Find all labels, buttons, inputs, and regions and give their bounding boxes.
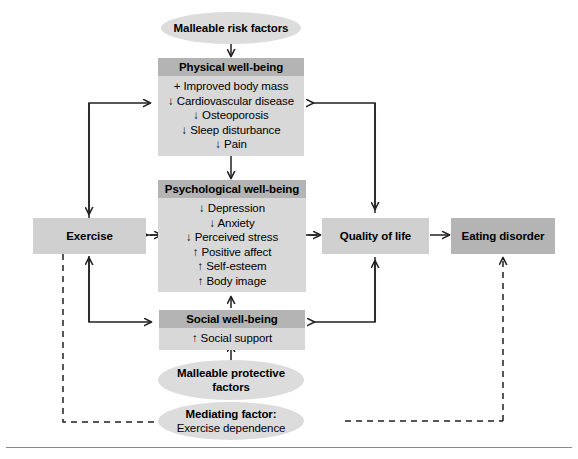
node-psychological-well-being[interactable]: Psychological well-being ↓ Depression ↓ … bbox=[158, 180, 306, 297]
physical-well-being-title: Physical well-being bbox=[158, 58, 304, 76]
arrow-exercise-to-social bbox=[89, 256, 151, 322]
arrow-exercise-to-physical bbox=[89, 103, 150, 218]
social-well-being-items: ↑ Social support bbox=[159, 328, 305, 350]
list-item: ↓ Osteoporosis bbox=[162, 108, 300, 123]
list-item: ↓ Anxiety bbox=[162, 216, 302, 231]
exercise-label: Exercise bbox=[66, 230, 113, 242]
mediating-factor-line2: Exercise dependence bbox=[177, 421, 286, 435]
eating-disorder-label: Eating disorder bbox=[462, 230, 545, 242]
list-item: + Improved body mass bbox=[162, 79, 300, 94]
node-malleable-protective-factors[interactable]: Malleable protective factors bbox=[158, 360, 304, 400]
list-item: ↓ Sleep disturbance bbox=[162, 123, 300, 138]
quality-of-life-label: Quality of life bbox=[340, 230, 411, 242]
node-mediating-factor[interactable]: Mediating factor: Exercise dependence bbox=[158, 402, 304, 440]
social-well-being-title: Social well-being bbox=[159, 310, 305, 328]
malleable-risk-factors-label: Malleable risk factors bbox=[174, 21, 289, 35]
list-item: ↓ Depression bbox=[162, 201, 302, 216]
list-item: ↑ Social support bbox=[163, 331, 301, 346]
physical-well-being-items: + Improved body mass ↓ Cardiovascular di… bbox=[158, 76, 304, 156]
node-quality-of-life[interactable]: Quality of life bbox=[322, 218, 429, 254]
node-physical-well-being[interactable]: Physical well-being + Improved body mass… bbox=[158, 58, 304, 152]
psychological-well-being-title: Psychological well-being bbox=[158, 180, 306, 198]
node-malleable-risk-factors[interactable]: Malleable risk factors bbox=[161, 12, 301, 44]
list-item: ↓ Cardiovascular disease bbox=[162, 94, 300, 109]
mediating-factor-line1: Mediating factor: bbox=[186, 407, 277, 421]
malleable-protective-factors-line1: Malleable protective bbox=[177, 366, 285, 380]
list-item: ↓ Pain bbox=[162, 137, 300, 152]
list-item: ↑ Self-esteem bbox=[162, 259, 302, 274]
bottom-divider bbox=[6, 447, 572, 448]
malleable-protective-factors-line2: factors bbox=[212, 380, 250, 394]
node-exercise[interactable]: Exercise bbox=[33, 218, 146, 254]
list-item: ↓ Perceived stress bbox=[162, 230, 302, 245]
list-item: ↑ Body image bbox=[162, 274, 302, 289]
diagram-canvas: Malleable risk factors Physical well-bei… bbox=[0, 0, 578, 459]
arrow-qol-to-physical bbox=[313, 103, 375, 213]
node-social-well-being[interactable]: Social well-being ↑ Social support bbox=[159, 310, 305, 347]
list-item: ↑ Positive affect bbox=[162, 245, 302, 260]
psychological-well-being-items: ↓ Depression ↓ Anxiety ↓ Perceived stres… bbox=[158, 198, 306, 292]
arrow-qol-to-social bbox=[314, 257, 375, 322]
node-eating-disorder[interactable]: Eating disorder bbox=[451, 218, 555, 254]
